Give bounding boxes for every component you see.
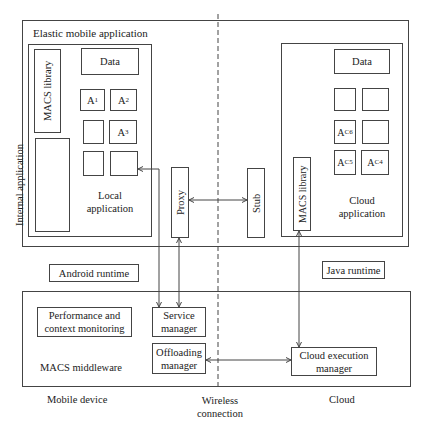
- performance-monitoring-box: Performance and context monitoring: [37, 307, 132, 337]
- cloud-macs-library: MACS library: [293, 157, 311, 231]
- local-macs-library: MACS library: [34, 49, 61, 133]
- cloud-component-ac5: AC5: [334, 150, 356, 175]
- middleware-label: MACS middleware: [40, 362, 122, 374]
- cloud-component-ac4: AC4: [361, 150, 389, 175]
- local-data-box: Data: [81, 48, 139, 75]
- cloud-component-ac6: AC6: [334, 120, 356, 144]
- android-runtime-box: Android runtime: [49, 264, 139, 282]
- cloud-application-label: Cloud application: [330, 194, 394, 220]
- local-component-empty-2: [83, 151, 104, 176]
- cloud-component-empty-2: [362, 88, 389, 111]
- cloud-data-box: Data: [334, 49, 390, 74]
- cloud-component-empty-1: [334, 88, 356, 111]
- internal-application: Internal application: [35, 138, 70, 232]
- cloud-execution-manager-box: Cloud execution manager: [291, 347, 377, 376]
- local-component-empty-3: [110, 151, 138, 176]
- cloud-component-empty-3: [362, 120, 389, 144]
- local-component-a2: A2: [110, 89, 137, 111]
- elastic-mobile-application-title: Elastic mobile application: [33, 27, 148, 39]
- service-manager-box: Service manager: [152, 307, 206, 337]
- stub-box: Stub: [247, 168, 265, 238]
- local-component-empty-1: [83, 120, 104, 144]
- local-component-a3: A3: [109, 120, 137, 144]
- local-component-a1: A1: [80, 89, 105, 111]
- offloading-manager-box: Offloading manager: [152, 343, 206, 374]
- mobile-device-label: Mobile device: [47, 394, 107, 406]
- proxy-box: Proxy: [171, 167, 189, 238]
- cloud-label: Cloud: [329, 394, 355, 406]
- wireless-connection-label: Wireless connection: [190, 394, 250, 420]
- java-runtime-box: Java runtime: [322, 261, 385, 279]
- local-application-label: Local application: [80, 189, 140, 215]
